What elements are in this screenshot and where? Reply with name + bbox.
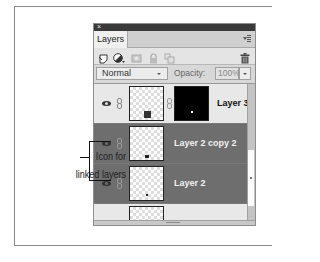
panel-menu-icon[interactable] <box>243 35 251 42</box>
opacity-input[interactable]: 100% <box>215 67 239 80</box>
eye-icon[interactable] <box>102 181 111 186</box>
chevron-down-icon <box>243 73 247 75</box>
layers-panel: × Layers Normal Opacity: <box>93 23 256 226</box>
lock-icon[interactable] <box>148 50 159 61</box>
layer-thumbnail <box>129 166 164 201</box>
layer-row[interactable] <box>94 204 249 221</box>
layers-toolbar <box>94 48 255 65</box>
new-layer-icon[interactable] <box>98 50 109 61</box>
link-icon[interactable] <box>117 98 121 108</box>
layer-row[interactable]: Layer 3 <box>94 84 249 124</box>
layer-thumbnail <box>129 206 164 221</box>
tab-layers[interactable]: Layers <box>94 31 128 48</box>
blend-row: Normal Opacity: 100% <box>94 65 255 84</box>
opacity-label: Opacity: <box>174 68 205 79</box>
mask-link-icon[interactable] <box>167 98 171 108</box>
eye-icon[interactable] <box>102 101 111 106</box>
blend-mode-select[interactable]: Normal <box>96 67 168 80</box>
tab-row: Layers <box>94 31 255 48</box>
link-icon[interactable] <box>117 138 121 148</box>
panel-resize-footer[interactable] <box>94 220 255 225</box>
layer-thumbnail <box>129 86 164 121</box>
layer-mask-icon[interactable] <box>131 50 142 61</box>
lock-transparency-icon[interactable] <box>164 50 175 61</box>
panel-titlebar[interactable]: × <box>94 24 255 31</box>
opacity-dropdown-button[interactable] <box>239 67 251 80</box>
blend-mode-value: Normal <box>102 68 131 78</box>
layer-name: Layer 2 <box>174 177 206 189</box>
callout-bracket <box>89 141 90 181</box>
callout-line-1: Icon for <box>57 150 126 163</box>
callout-bracket-bottom <box>89 180 111 181</box>
layer-thumbnail <box>129 126 164 161</box>
chevron-down-icon <box>157 73 161 75</box>
scroll-thumb[interactable] <box>248 150 254 206</box>
layer-mask-thumbnail <box>174 86 209 121</box>
trash-icon[interactable] <box>240 50 251 61</box>
layer-name: Layer 3 <box>217 97 249 109</box>
adjustment-layer-icon[interactable] <box>113 50 124 61</box>
layer-name: Layer 2 copy 2 <box>174 137 237 149</box>
callout-bracket-top <box>89 141 111 142</box>
layers-scrollbar[interactable] <box>247 84 255 221</box>
